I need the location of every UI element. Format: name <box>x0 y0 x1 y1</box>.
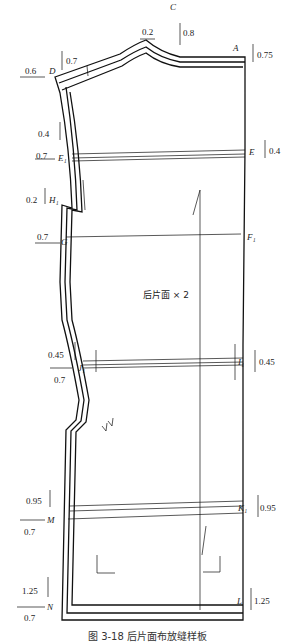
dim-N-h: 0.7 <box>24 614 35 623</box>
dim-N-v: 1.25 <box>22 587 38 596</box>
dim-D-v: 0.7 <box>66 57 77 66</box>
dim-C-v: 0.8 <box>183 29 194 38</box>
dim-G-h: 0.7 <box>37 233 48 242</box>
dim-E-v: 0.4 <box>269 147 280 156</box>
point-D-label: D <box>49 67 56 76</box>
point-K1-label: K₁ <box>238 504 247 513</box>
dim-J1-v: 0.45 <box>48 351 64 360</box>
point-F1-label: F₁ <box>247 233 256 242</box>
point-N-label: N <box>47 603 53 612</box>
piece-label: 后片面 × 2 <box>143 288 189 301</box>
dim-C-h: 0.2 <box>142 28 153 37</box>
outer-outline <box>55 40 245 620</box>
point-M-label: M <box>47 516 55 525</box>
dim-E1-h: 0.7 <box>36 152 47 161</box>
point-H1-label: H₁ <box>49 196 59 205</box>
point-A-label: A <box>233 44 239 53</box>
dim-E1-v: 0.4 <box>38 130 49 139</box>
figure-caption: 图 3-18 后片面布放缝样板 <box>0 628 295 643</box>
dim-K1-v: 0.95 <box>260 504 276 513</box>
point-E1-label: E₁ <box>58 154 67 163</box>
dim-J1-h: 0.7 <box>54 376 65 385</box>
point-L-label: L <box>237 597 242 606</box>
middle-outline <box>59 47 245 613</box>
dim-H1-v: 0.2 <box>26 196 37 205</box>
dim-L-v: 1.25 <box>254 597 270 606</box>
dim-A-v: 0.75 <box>257 51 273 60</box>
dim-M-h: 0.7 <box>24 528 35 537</box>
point-I1-label: I₁ <box>238 358 244 367</box>
dim-I1-v: 0.45 <box>259 358 275 367</box>
dim-D-h: 0.6 <box>25 67 36 76</box>
point-E-label: E <box>249 148 255 157</box>
dim-M-v: 0.95 <box>26 497 42 506</box>
inner-outline <box>62 53 243 605</box>
point-G-label: G <box>61 238 68 247</box>
point-J1-label: J₁ <box>78 364 85 373</box>
point-C-label: C <box>170 3 176 12</box>
